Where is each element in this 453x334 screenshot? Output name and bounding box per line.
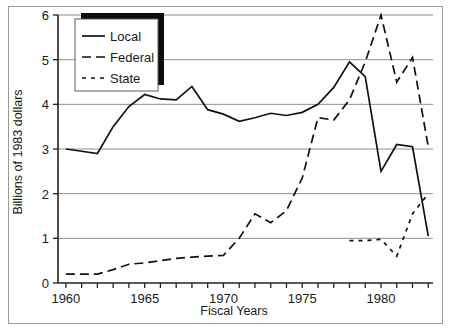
y-tick-label-1: 1 (42, 231, 49, 246)
x-tick-label-1980: 1980 (367, 291, 396, 306)
legend-label-local: Local (110, 29, 141, 44)
series-line-state (349, 194, 428, 257)
legend-label-state: State (110, 71, 140, 86)
y-tick-label-0: 0 (42, 276, 49, 291)
x-tick-label-1965: 1965 (130, 291, 159, 306)
y-tick-label-2: 2 (42, 187, 49, 202)
legend-label-federal: Federal (110, 50, 154, 65)
y-axis-title: Billions of 1983 dollars (11, 89, 25, 214)
y-tick-label-3: 3 (42, 142, 49, 157)
line-chart: 012345619601965197019751980Fiscal YearsB… (0, 0, 453, 334)
x-axis-title: Fiscal Years (200, 304, 267, 318)
y-tick-label-6: 6 (42, 8, 49, 23)
x-tick-label-1975: 1975 (288, 291, 317, 306)
figure-container: 012345619601965197019751980Fiscal YearsB… (0, 0, 453, 334)
x-tick-label-1960: 1960 (51, 291, 80, 306)
y-tick-label-4: 4 (42, 97, 49, 112)
y-tick-label-5: 5 (42, 53, 49, 68)
